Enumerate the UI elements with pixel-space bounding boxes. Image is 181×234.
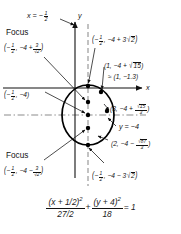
focus-bottom-x-den: 2 xyxy=(11,172,16,178)
focus-bottom-sep: , xyxy=(16,167,18,174)
vertex-top-sep: , xyxy=(104,36,106,43)
point-vertex-top xyxy=(86,84,90,88)
equation-term-1-denominator: 27/2 xyxy=(46,208,84,219)
focus-top-text: Focus xyxy=(6,28,28,37)
point-right-mid-text: (3, −4 + xyxy=(110,105,135,112)
focus-top-open-paren: ( xyxy=(4,44,6,53)
y-axis-label-text: y xyxy=(78,11,82,20)
point-right-upper-approx-text: ≈ (1, −1.3) xyxy=(108,73,138,80)
point-right-mid-den: 3 xyxy=(135,110,147,116)
leader-center xyxy=(45,92,85,113)
label-focus-top-point: (−12, −4 +3√2) xyxy=(4,44,43,55)
x-equals-denominator: 2 xyxy=(44,16,49,22)
vertex-bottom-open-paren: ( xyxy=(92,172,94,181)
label-x-equals-line: x = −12 xyxy=(27,11,49,23)
label-focus-bottom-word: Focus xyxy=(6,152,28,161)
equation-term-1-exponent: 2 xyxy=(79,196,82,202)
equation-term-2-numerator: (y + 4)2 xyxy=(92,196,123,208)
y-equals-text: y = −4 xyxy=(119,122,139,131)
point-right-mid-radical: √15 xyxy=(136,104,146,110)
ellipse-graph-figure: x = −12 Focus (−12, −4 +3√2) (−12, −4 + … xyxy=(0,0,181,234)
sqrt-glyph-icon: √ xyxy=(127,173,130,181)
center-close-paren: ) xyxy=(27,91,29,98)
label-point-right-mid: (3, −4 + √153) xyxy=(110,104,149,116)
point-right-upper xyxy=(99,90,103,94)
point-right-lower-text: (2, −4 − xyxy=(111,140,136,147)
label-vertex-bottom: (−12, −4 − 3√2) xyxy=(92,172,137,183)
equation-term-1-numerator: (x + 1/2)2 xyxy=(46,196,84,208)
vertex-top-y: −4 + 3 xyxy=(107,36,126,43)
vertex-top-x-sign: − xyxy=(94,36,98,43)
vertex-top-x-fraction: 12 xyxy=(99,36,104,47)
center-y: −4 xyxy=(19,91,27,98)
vertex-bottom-x-fraction: 12 xyxy=(99,172,104,183)
focus-bottom-x-fraction: 12 xyxy=(11,167,16,178)
label-center-point: (−12, −4) xyxy=(4,91,29,102)
point-right-lower-radical: √87 xyxy=(137,139,147,145)
point-right-upper-radical: √15 xyxy=(129,62,142,70)
x-equals-fraction: 12 xyxy=(44,11,49,23)
sqrt-glyph-icon: √ xyxy=(130,62,133,70)
focus-bottom-y-den: √2 xyxy=(33,172,40,178)
center-x-sign: − xyxy=(6,91,10,98)
equation-term-1: (x + 1/2)227/2 xyxy=(46,196,84,219)
point-right-mid-close: ) xyxy=(147,105,149,112)
x-axis-label-text: x xyxy=(146,83,150,92)
point-right-lower-num: √87 xyxy=(136,139,148,145)
focus-top-y-fraction: 3√2 xyxy=(33,44,40,55)
equation-term-2-num-text: (y + 4) xyxy=(94,197,118,207)
point-focus-lower xyxy=(86,126,90,130)
equation-term-2-denominator: 18 xyxy=(92,208,123,219)
point-right-upper-close: ) xyxy=(141,62,143,69)
label-point-right-upper: (1, −4 + √15) xyxy=(104,62,144,70)
vertex-bottom-x-sign: − xyxy=(94,172,98,179)
point-right-lower-close: ) xyxy=(148,140,150,147)
vertex-top-radical: √2 xyxy=(126,36,135,44)
center-x-fraction: 12 xyxy=(11,91,16,102)
leader-vertex-top xyxy=(89,48,96,83)
label-y-equals-line: y = −4 xyxy=(119,123,139,131)
sqrt-glyph-icon: √ xyxy=(127,37,130,45)
point-right-lower-den: 3 xyxy=(136,145,148,151)
point-right-mid-fraction: √153 xyxy=(135,104,147,116)
x-equals-lhs: x xyxy=(27,11,31,20)
x-axis-label: x xyxy=(146,84,150,92)
equation-term-2: (y + 4)218 xyxy=(92,196,123,219)
point-right-mid-num: √15 xyxy=(135,104,147,110)
focus-bottom-y-fraction: 3√2 xyxy=(33,167,40,178)
leader-focus-top xyxy=(44,57,85,100)
focus-top-close-paren: ) xyxy=(41,44,43,53)
vertex-top-x-den: 2 xyxy=(99,41,104,47)
leader-focus-bottom xyxy=(44,130,85,160)
focus-top-sep: , xyxy=(16,44,18,51)
focus-top-x-den: 2 xyxy=(11,49,16,55)
equation-term-2-exponent: 2 xyxy=(117,196,120,202)
point-focus-upper xyxy=(86,100,90,104)
label-point-right-upper-approx: ≈ (1, −1.3) xyxy=(108,74,138,81)
vertex-bottom-radical: √2 xyxy=(126,172,135,180)
equation-equals-one: = 1 xyxy=(124,202,136,212)
vertex-top-open-paren: ( xyxy=(92,36,94,45)
focus-bottom-open-paren: ( xyxy=(4,167,6,176)
point-right-mid-radicand: 15 xyxy=(139,104,145,110)
point-right-lower-radicand: 87 xyxy=(140,139,146,145)
leader-x-equals xyxy=(60,19,74,25)
leader-vertex-bottom xyxy=(89,148,104,163)
focus-top-y-den: √2 xyxy=(33,49,40,55)
point-center xyxy=(86,113,90,117)
label-point-right-lower: (2, −4 − √873) xyxy=(111,139,150,151)
focus-top-y-base: −4 + xyxy=(19,44,32,51)
focus-bottom-x-sign: − xyxy=(6,167,10,174)
focus-bottom-y-base: −4 − xyxy=(19,167,32,174)
focus-bottom-close-paren: ) xyxy=(41,167,43,176)
y-axis-label: y xyxy=(78,12,82,20)
label-focus-top-word: Focus xyxy=(6,29,28,38)
sqrt-glyph-icon: √ xyxy=(138,140,140,146)
point-right-upper-text: (1, −4 + xyxy=(104,62,129,69)
x-equals-minus: − xyxy=(39,11,43,20)
vertex-bottom-x-den: 2 xyxy=(99,177,104,183)
focus-top-x-fraction: 12 xyxy=(11,44,16,55)
focus-top-x-sign: − xyxy=(6,44,10,51)
point-right-upper-radicand: 15 xyxy=(133,62,141,70)
sqrt-glyph-icon: √ xyxy=(137,105,139,111)
